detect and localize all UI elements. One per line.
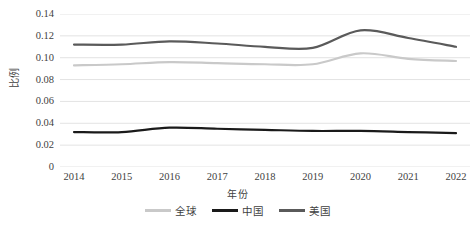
chart-legend: 全球中国美国 <box>0 203 475 218</box>
legend-label: 全球 <box>175 203 196 218</box>
legend-label: 中国 <box>242 203 263 218</box>
y-axis-tick-label: 0.12 <box>10 31 54 42</box>
x-axis-tick-label: 2017 <box>195 170 239 184</box>
legend-swatch <box>279 209 305 212</box>
y-axis-tick-label: 0.10 <box>10 53 54 64</box>
legend-swatch <box>145 209 171 212</box>
y-axis-tick-label: 0.08 <box>10 75 54 86</box>
legend-item[interactable]: 全球 <box>145 203 196 218</box>
series-lines <box>60 14 470 167</box>
x-axis-tick-label: 2016 <box>148 170 192 184</box>
y-axis-tick-label: 0 <box>10 162 54 173</box>
legend-swatch <box>212 209 238 212</box>
x-axis-tick-label: 2020 <box>339 170 383 184</box>
series-line <box>74 128 456 134</box>
legend-label: 美国 <box>309 203 330 218</box>
y-axis-tick-label: 0.04 <box>10 118 54 129</box>
x-axis-title: 年份 <box>0 186 475 201</box>
x-axis-tick-label: 2018 <box>243 170 287 184</box>
y-axis-tick-label: 0.06 <box>10 96 54 107</box>
x-axis-tick-label: 2015 <box>100 170 144 184</box>
x-axis-tick-label: 2022 <box>434 170 475 184</box>
y-axis-tick-label: 0.14 <box>10 9 54 20</box>
plot-area <box>60 14 470 167</box>
x-axis-tick-label: 2019 <box>291 170 335 184</box>
series-line <box>74 53 456 65</box>
x-axis-tick-label: 2021 <box>386 170 430 184</box>
y-axis-tick-label: 0.02 <box>10 140 54 151</box>
legend-item[interactable]: 美国 <box>279 203 330 218</box>
x-axis-tick-labels: 201420152016201720182019202020212022 <box>60 170 470 186</box>
x-axis-tick-label: 2014 <box>52 170 96 184</box>
line-chart: 比例 00.020.040.060.080.100.120.14 2014201… <box>0 0 475 234</box>
series-line <box>74 30 456 49</box>
legend-item[interactable]: 中国 <box>212 203 263 218</box>
